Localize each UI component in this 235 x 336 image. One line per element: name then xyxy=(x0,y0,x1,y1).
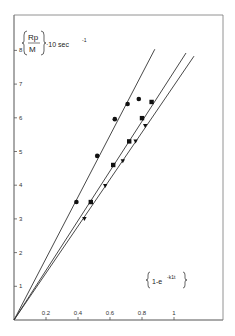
y-tick-label: 6 xyxy=(19,115,23,121)
data-point-triangle xyxy=(133,140,137,144)
x-tick-label: 0.2 xyxy=(42,310,51,316)
y-tick-label: 4 xyxy=(19,182,23,188)
data-point-square xyxy=(111,163,115,167)
x-label-left-brace xyxy=(146,272,150,288)
y-label-numerator: Rp xyxy=(28,33,39,42)
y-ticks: 12345678 xyxy=(14,47,23,289)
data-point-square xyxy=(89,200,93,204)
data-point-square xyxy=(140,116,144,120)
x-tick-label: 0.4 xyxy=(74,310,83,316)
data-point-circle xyxy=(125,102,130,107)
y-label-left-brace xyxy=(22,31,27,55)
data-point-circle xyxy=(74,200,79,205)
y-label-denominator: M xyxy=(29,45,36,54)
x-label-text: 1-e xyxy=(152,278,162,285)
data-points xyxy=(74,97,154,221)
chart-svg: 12345678 0.20.40.60.81 Rp M ·10 sec -1 1… xyxy=(0,0,235,336)
data-point-square xyxy=(149,100,153,104)
x-ticks: 0.20.40.60.81 xyxy=(42,310,177,320)
y-tick-label: 1 xyxy=(19,283,23,289)
y-label-suffix: ·10 sec xyxy=(46,41,69,48)
data-point-circle xyxy=(113,117,118,122)
y-label-exponent: -1 xyxy=(82,37,87,43)
y-tick-label: 3 xyxy=(19,216,23,222)
y-tick-label: 7 xyxy=(19,81,23,87)
x-axis-label: 1-e -k1t xyxy=(146,272,187,288)
x-tick-label: 0.8 xyxy=(138,310,147,316)
x-tick-label: 1 xyxy=(172,310,176,316)
fit-line-circles xyxy=(14,49,155,320)
x-label-exponent: -k1t xyxy=(167,274,176,280)
x-label-right-brace xyxy=(183,272,187,288)
data-point-circle xyxy=(95,154,100,159)
data-point-triangle xyxy=(103,184,107,188)
fit-line-triangles xyxy=(14,56,194,320)
y-tick-label: 8 xyxy=(19,47,23,53)
y-axis-label: Rp M ·10 sec -1 xyxy=(22,31,87,55)
x-tick-label: 0.6 xyxy=(106,310,115,316)
data-point-square xyxy=(127,139,131,143)
y-tick-label: 5 xyxy=(19,149,23,155)
y-tick-label: 2 xyxy=(19,250,23,256)
data-point-circle xyxy=(137,97,142,102)
